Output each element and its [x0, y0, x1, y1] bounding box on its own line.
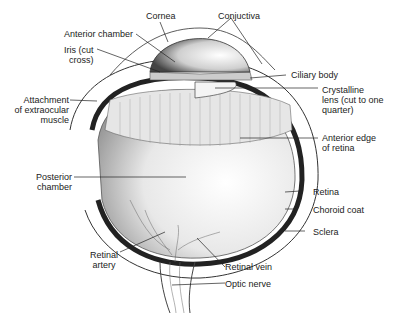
label-retina: Retina — [313, 187, 339, 197]
label-optic-nerve: Optic nerve — [225, 279, 271, 289]
label-posterior-chamber: Posterior chamber — [0, 172, 72, 192]
label-anterior-edge-retina: Anterior edge of retina — [322, 133, 376, 153]
label-retinal-artery: Retinal artery — [90, 250, 118, 270]
label-sclera: Sclera — [313, 227, 339, 237]
label-ciliary-body: Ciliary body — [291, 70, 338, 80]
label-crystalline-lens: Crystalline lens (cut to one quarter) — [322, 85, 384, 115]
eye-diagram — [0, 0, 400, 313]
label-cornea: Cornea — [146, 11, 176, 21]
label-iris: Iris (cut cross) — [64, 45, 94, 65]
cornea — [150, 39, 250, 72]
iris — [150, 72, 252, 80]
label-attachment-extraocular-muscle: Attachment of extraocular muscle — [0, 95, 69, 125]
label-retinal-vein: Retinal vein — [225, 262, 272, 272]
label-conjuctiva: Conjuctiva — [218, 11, 260, 21]
optic-nerve — [160, 262, 195, 313]
label-choroid-coat: Choroid coat — [313, 205, 364, 215]
label-anterior-chamber: Anterior chamber — [64, 29, 133, 39]
